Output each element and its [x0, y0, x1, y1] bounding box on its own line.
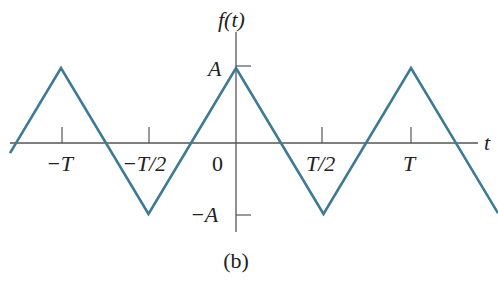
x-tick-label-zero: 0: [212, 151, 223, 176]
x-tick-label-T: T: [403, 151, 417, 176]
y-tick-label-neg-A: −A: [190, 202, 219, 227]
triangle-wave-chart: f(t) t A −A −T −T/2 0 T/2 T (b): [0, 0, 498, 282]
x-tick-label-T-half: T/2: [306, 151, 335, 176]
y-tick-label-A: A: [206, 56, 222, 81]
x-tick-label-neg-T-half: −T/2: [122, 151, 166, 176]
x-axis-label: t: [484, 130, 491, 155]
triangle-wave-line: [10, 68, 498, 214]
x-tick-label-neg-T: −T: [46, 151, 75, 176]
y-axis-label: f(t): [218, 7, 245, 32]
figure-caption: (b): [223, 248, 249, 273]
